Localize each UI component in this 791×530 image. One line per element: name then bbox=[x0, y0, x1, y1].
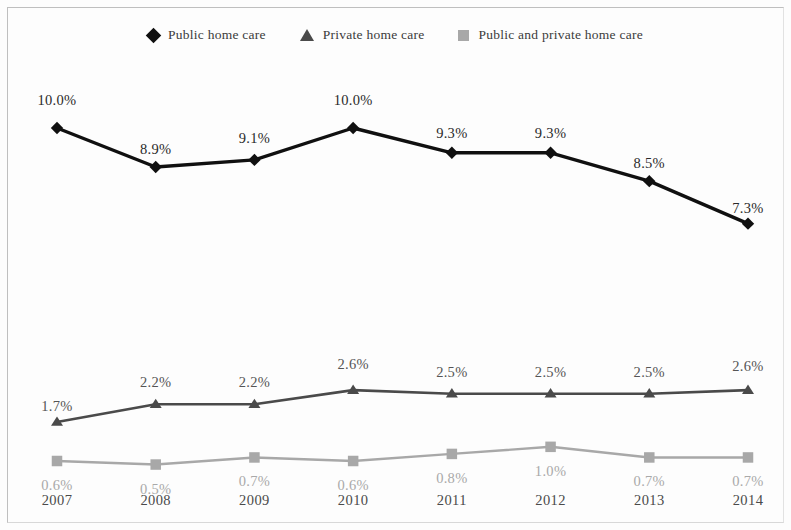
data-point-marker[interactable] bbox=[348, 456, 359, 467]
data-point-marker[interactable] bbox=[51, 122, 63, 134]
data-point-marker[interactable] bbox=[249, 452, 260, 463]
series-canvas bbox=[0, 0, 791, 530]
x-axis-label-2010: 2010 bbox=[338, 492, 369, 509]
data-point-marker[interactable] bbox=[742, 217, 754, 229]
data-point-marker[interactable] bbox=[446, 147, 458, 159]
data-point-label: 1.0% bbox=[535, 463, 566, 480]
data-point-label: 2.5% bbox=[436, 364, 467, 381]
x-axis-label-2009: 2009 bbox=[239, 492, 270, 509]
data-point-marker[interactable] bbox=[644, 452, 655, 463]
data-point-label: 0.7% bbox=[239, 473, 270, 490]
series-line-1 bbox=[57, 390, 748, 422]
data-point-label: 8.5% bbox=[634, 155, 665, 172]
data-point-marker[interactable] bbox=[545, 442, 556, 453]
data-point-label: 2.2% bbox=[140, 374, 171, 391]
data-point-label: 10.0% bbox=[334, 92, 373, 109]
data-point-label: 9.3% bbox=[535, 125, 566, 142]
data-point-label: 9.3% bbox=[436, 125, 467, 142]
x-axis-label-2008: 2008 bbox=[140, 492, 171, 509]
data-point-label: 2.6% bbox=[732, 358, 763, 375]
data-point-marker[interactable] bbox=[447, 449, 458, 460]
data-point-label: 8.9% bbox=[140, 141, 171, 158]
data-point-marker[interactable] bbox=[544, 147, 556, 159]
data-point-marker[interactable] bbox=[150, 161, 162, 173]
data-point-label: 2.2% bbox=[239, 374, 270, 391]
x-axis-label-2007: 2007 bbox=[42, 492, 73, 509]
data-point-label: 10.0% bbox=[38, 92, 77, 109]
x-axis-label-2013: 2013 bbox=[634, 492, 665, 509]
data-point-label: 0.7% bbox=[634, 473, 665, 490]
data-point-label: 2.6% bbox=[337, 356, 368, 373]
data-point-label: 9.1% bbox=[239, 130, 270, 147]
chart-container: Public home care Private home care Publi… bbox=[0, 0, 791, 530]
data-point-marker[interactable] bbox=[248, 154, 260, 166]
data-point-label: 2.5% bbox=[535, 364, 566, 381]
data-point-label: 2.5% bbox=[634, 364, 665, 381]
data-point-marker[interactable] bbox=[347, 122, 359, 134]
x-axis-label-2011: 2011 bbox=[437, 492, 467, 509]
data-point-label: 0.7% bbox=[732, 473, 763, 490]
data-point-label: 1.7% bbox=[41, 398, 72, 415]
data-point-marker[interactable] bbox=[643, 175, 655, 187]
data-point-marker[interactable] bbox=[52, 456, 63, 467]
data-point-label: 0.8% bbox=[436, 470, 467, 487]
x-axis-label-2014: 2014 bbox=[733, 492, 764, 509]
x-axis-label-2012: 2012 bbox=[535, 492, 566, 509]
data-point-label: 7.3% bbox=[732, 200, 763, 217]
data-point-marker[interactable] bbox=[150, 459, 161, 470]
data-point-marker[interactable] bbox=[743, 452, 754, 463]
plot-area bbox=[0, 0, 791, 530]
